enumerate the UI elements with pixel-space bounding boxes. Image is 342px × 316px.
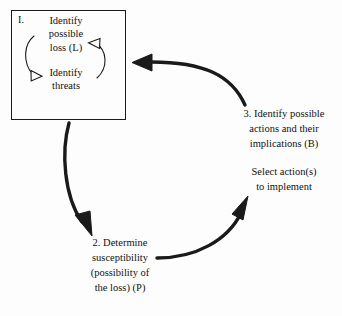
arrow-stage-one-to-stage-two-head <box>75 211 92 236</box>
arrow-stage-one-to-stage-two-path <box>65 123 82 222</box>
stage-one-node-identify-loss: Identify possible loss (L) <box>30 14 102 54</box>
arrow-stage-two-to-stage-three-head <box>232 196 248 220</box>
stage-two-text: 2. Determine susceptibility (possibility… <box>58 236 182 296</box>
stage-three-text: 3. Identify possible actions and their i… <box>228 107 340 152</box>
stage-one-node-identify-threats: Identify threats <box>30 66 102 93</box>
stage-one-label: I. <box>18 14 24 25</box>
arrow-stage-three-to-stage-one-path <box>146 62 245 105</box>
stage-three-select-action-note: Select action(s) to implement <box>228 165 340 195</box>
arrow-stage-three-to-stage-one-head <box>132 54 152 71</box>
diagram-canvas: I. Identify possible loss (L) Identify t… <box>0 0 342 316</box>
